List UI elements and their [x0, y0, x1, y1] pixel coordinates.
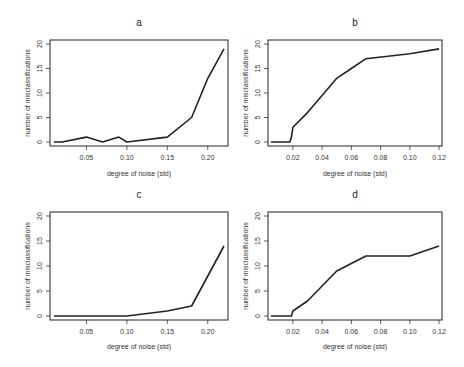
y-tick-label: 10	[36, 262, 43, 270]
x-tick-label: 0.10	[403, 154, 417, 161]
y-tick-label: 15	[36, 237, 43, 245]
y-tick-label: 5	[36, 289, 43, 293]
y-axis-label: number of misclassifications	[24, 49, 31, 137]
y-tick-label: 15	[36, 65, 43, 73]
y-tick-label: 0	[254, 314, 261, 318]
x-tick-label: 0.02	[286, 154, 300, 161]
x-tick-label: 0.05	[80, 328, 94, 335]
y-tick-label: 0	[36, 140, 43, 144]
x-axis-label: degree of noise (std)	[323, 170, 387, 178]
x-axis: 0.050.100.150.20	[80, 146, 215, 161]
y-tick-label: 5	[254, 289, 261, 293]
y-tick-label: 15	[254, 237, 261, 245]
x-tick-label: 0.06	[345, 328, 359, 335]
x-axis-label: degree of noise (std)	[107, 343, 171, 351]
panel-a: a 0.050.100.150.20 05101520 degree of no…	[24, 17, 228, 178]
x-tick-label: 0.06	[345, 154, 359, 161]
series-line	[54, 246, 224, 316]
y-axis-label: number of misclassifications	[242, 49, 249, 137]
y-axis-label: number of misclassifications	[24, 222, 31, 310]
y-tick-label: 20	[254, 212, 261, 220]
x-axis: 0.050.100.150.20	[80, 320, 215, 335]
x-tick-label: 0.15	[161, 328, 175, 335]
panel-title: a	[136, 17, 142, 28]
x-tick-label: 0.10	[120, 154, 134, 161]
panel-title: c	[137, 189, 142, 200]
x-tick-label: 0.02	[286, 328, 300, 335]
y-axis-label: number of misclassifications	[242, 222, 249, 310]
y-tick-label: 15	[254, 65, 261, 73]
series-line	[54, 49, 224, 142]
y-axis: 05101520	[36, 212, 50, 318]
x-tick-label: 0.12	[432, 328, 446, 335]
x-tick-label: 0.08	[374, 154, 388, 161]
y-tick-label: 10	[254, 262, 261, 270]
series-line	[271, 246, 439, 316]
series-line	[271, 49, 439, 142]
x-axis-label: degree of noise (std)	[323, 343, 387, 351]
y-tick-label: 10	[254, 89, 261, 97]
x-tick-label: 0.10	[403, 328, 417, 335]
y-axis: 05101520	[36, 40, 50, 144]
x-tick-label: 0.04	[315, 328, 329, 335]
x-tick-label: 0.12	[432, 154, 446, 161]
y-tick-label: 20	[254, 40, 261, 48]
panel-title: d	[352, 189, 358, 200]
plot-frame	[268, 40, 442, 146]
y-axis: 05101520	[254, 212, 268, 318]
plot-frame	[268, 212, 442, 320]
panel-title: b	[352, 17, 358, 28]
y-tick-label: 0	[36, 314, 43, 318]
x-axis-label: degree of noise (std)	[107, 170, 171, 178]
x-tick-label: 0.08	[374, 328, 388, 335]
x-tick-label: 0.15	[161, 154, 175, 161]
x-tick-label: 0.20	[201, 154, 215, 161]
y-tick-label: 20	[36, 40, 43, 48]
figure: a 0.050.100.150.20 05101520 degree of no…	[0, 0, 464, 367]
y-tick-label: 5	[254, 115, 261, 119]
panel-d: d 0.020.040.060.080.100.12 05101520 degr…	[242, 189, 446, 351]
y-tick-label: 0	[254, 140, 261, 144]
panel-b: b 0.020.040.060.080.100.12 05101520 degr…	[242, 17, 446, 178]
x-axis: 0.020.040.060.080.100.12	[286, 320, 446, 335]
x-tick-label: 0.20	[201, 328, 215, 335]
y-tick-label: 5	[36, 115, 43, 119]
x-tick-label: 0.05	[80, 154, 94, 161]
y-tick-label: 10	[36, 89, 43, 97]
y-tick-label: 20	[36, 212, 43, 220]
y-axis: 05101520	[254, 40, 268, 144]
x-tick-label: 0.10	[120, 328, 134, 335]
panel-c: c 0.050.100.150.20 05101520 degree of no…	[24, 189, 228, 351]
plot-frame	[50, 212, 228, 320]
x-axis: 0.020.040.060.080.100.12	[286, 146, 446, 161]
x-tick-label: 0.04	[315, 154, 329, 161]
